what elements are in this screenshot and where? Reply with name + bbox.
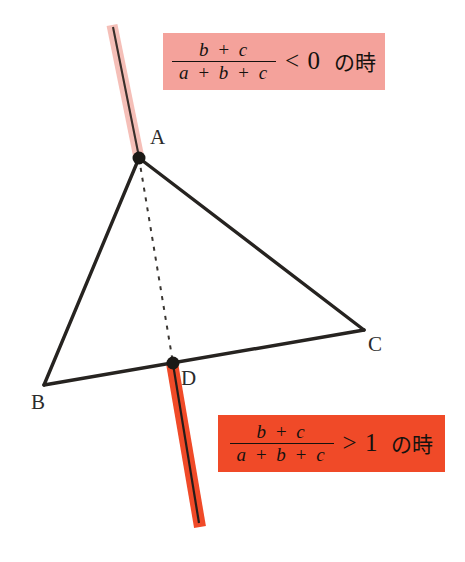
vertex-label-c: C (368, 334, 382, 355)
condition-text-top: の時 (330, 46, 376, 78)
condition-greater-than-one-box: b + c a + b + c > 1 の時 (218, 415, 445, 472)
condition-greater-than-one-formula: b + c a + b + c > 1 の時 (230, 422, 434, 466)
fraction-top-denominator: a + b + c (176, 62, 272, 83)
condition-text-bottom: の時 (387, 428, 433, 460)
figure-canvas: A B C D b + c a + b + c < 0 の時 b + c a +… (0, 0, 465, 562)
vertex-label-a: A (150, 127, 165, 148)
condition-negative-box: b + c a + b + c < 0 の時 (163, 33, 385, 90)
edge-AC (139, 158, 364, 330)
relation-bottom: > 1 (343, 429, 379, 459)
ray-above-a-core (113, 27, 139, 157)
condition-negative-formula: b + c a + b + c < 0 の時 (172, 40, 376, 84)
fraction-bottom-numerator: b + c (253, 422, 309, 443)
fraction-top-numerator: b + c (196, 40, 252, 61)
vertex-label-d: D (181, 368, 196, 389)
fraction-top: b + c a + b + c (172, 40, 276, 84)
ray-above-a (112, 25, 139, 158)
fraction-bottom-denominator: a + b + c (234, 444, 330, 465)
edge-AB (44, 158, 139, 385)
segment-AD (139, 158, 173, 363)
edge-BC (44, 330, 364, 385)
vertex-label-b: B (31, 392, 45, 413)
vertex-dot-a (133, 152, 146, 165)
fraction-bottom: b + c a + b + c (230, 422, 334, 466)
vertex-dot-d (167, 357, 180, 370)
relation-top: < 0 (285, 47, 321, 77)
